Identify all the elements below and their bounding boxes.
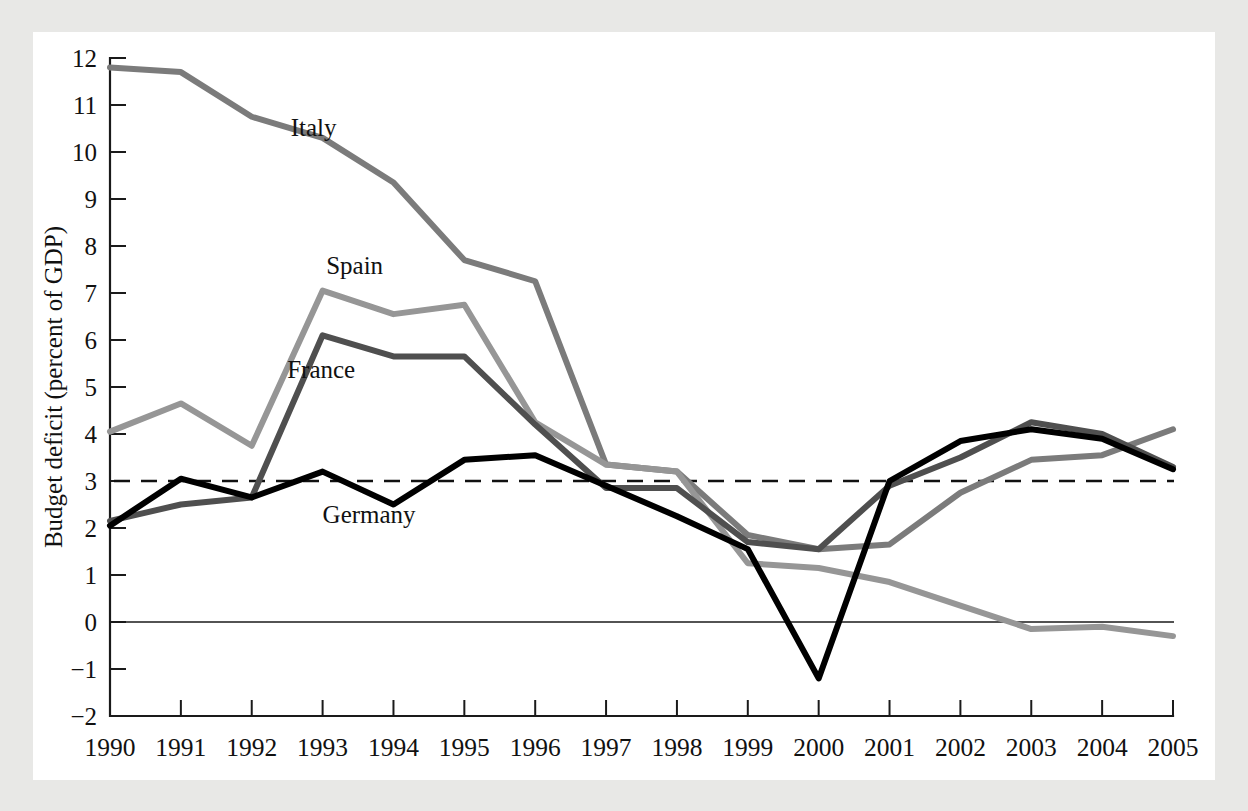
y-tick-label: 1 [85, 562, 98, 589]
x-tick-label: 1991 [155, 733, 206, 762]
x-tick-label: 2005 [1148, 733, 1199, 762]
series-label-germany: Germany [323, 501, 417, 528]
x-tick-label: 2003 [1006, 733, 1057, 762]
y-tick-label: 10 [72, 139, 97, 166]
y-tick-label: −1 [70, 656, 97, 683]
x-tick-label: 2000 [793, 733, 844, 762]
x-tick-labels: 1990199119921993199419951996199719981999… [85, 733, 1199, 762]
series-label-spain: Spain [326, 252, 383, 279]
y-tick-label: 2 [85, 515, 98, 542]
x-tick-label: 1994 [368, 733, 419, 762]
y-tick-label: 6 [85, 327, 98, 354]
x-tick-label: 1992 [226, 733, 277, 762]
x-tick-label: 1993 [297, 733, 348, 762]
data-series [110, 67, 1173, 678]
axis-ticks [110, 105, 1102, 716]
y-tick-label: −2 [70, 703, 97, 730]
x-tick-label: 1996 [510, 733, 561, 762]
series-line-italy [110, 67, 1173, 549]
x-tick-label: 2002 [935, 733, 986, 762]
series-label-france: France [287, 356, 355, 383]
y-tick-label: 3 [85, 468, 98, 495]
series-label-italy: Italy [291, 114, 337, 141]
y-tick-label: 4 [85, 421, 98, 448]
axis-lines [110, 58, 1173, 716]
x-tick-label: 2004 [1077, 733, 1128, 762]
y-tick-label: 0 [85, 609, 98, 636]
x-tick-label: 2001 [864, 733, 915, 762]
x-tick-label: 1998 [651, 733, 702, 762]
y-tick-label: 9 [85, 186, 98, 213]
y-tick-label: 12 [72, 45, 97, 72]
x-tick-label: 1999 [722, 733, 773, 762]
figure-page: 1211109876543210−1−2 1990199119921993199… [0, 0, 1248, 811]
y-tick-label: 11 [73, 92, 97, 119]
y-axis-title: Budget deficit (percent of GDP) [40, 226, 68, 548]
y-axis-title-text: Budget deficit (percent of GDP) [40, 226, 68, 548]
line-chart: 1211109876543210−1−2 1990199119921993199… [0, 0, 1248, 811]
y-tick-label: 7 [85, 280, 98, 307]
y-tick-label: 8 [85, 233, 98, 260]
x-tick-label: 1995 [439, 733, 490, 762]
x-tick-label: 1997 [581, 733, 632, 762]
x-tick-label: 1990 [85, 733, 136, 762]
y-tick-labels: 1211109876543210−1−2 [70, 45, 97, 730]
y-tick-label: 5 [85, 374, 98, 401]
series-line-france [110, 335, 1173, 549]
axes [110, 58, 1173, 716]
